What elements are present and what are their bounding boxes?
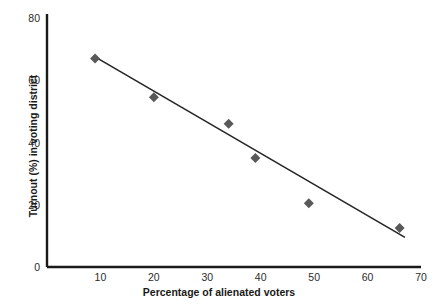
data-point-marker (90, 53, 100, 63)
scatter-chart: 020406080 10203040506070 Percentage of a… (0, 0, 438, 307)
trend-line-segment (95, 57, 405, 238)
y-tick-label: 0 (10, 262, 40, 273)
x-tick-label: 40 (255, 272, 267, 283)
data-point-marker (224, 119, 234, 129)
x-tick-label: 20 (148, 272, 160, 283)
y-tick-label: 80 (10, 13, 40, 24)
x-tick-label: 70 (415, 272, 427, 283)
data-point-marker (304, 198, 314, 208)
axis-lines (47, 14, 421, 267)
y-axis-title: Turnout (%) in voting district (27, 36, 39, 256)
x-axis-title: Percentage of alienated voters (0, 286, 438, 298)
data-markers (90, 53, 405, 233)
data-point-marker (250, 153, 260, 163)
x-tick-label: 30 (201, 272, 213, 283)
plot-area (0, 0, 438, 307)
trend-line (95, 57, 405, 238)
x-tick-label: 60 (362, 272, 374, 283)
x-tick-label: 10 (95, 272, 107, 283)
x-tick-label: 50 (308, 272, 320, 283)
